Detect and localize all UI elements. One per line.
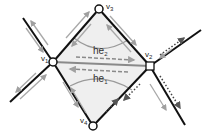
label-v2: v2 <box>145 51 152 60</box>
half-edge-diagram: v3 v1 v2 v4 he2 he1 <box>0 0 209 134</box>
label-v4: v4 <box>80 117 87 126</box>
face-upper <box>53 9 150 66</box>
vertex-v1 <box>49 58 57 66</box>
vertex-v4 <box>89 122 97 130</box>
label-v1: v1 <box>41 55 48 64</box>
label-he2: he2 <box>93 46 107 57</box>
vertex-v3 <box>95 5 103 13</box>
label-he1: he1 <box>93 74 107 85</box>
mesh-graphic <box>0 0 209 134</box>
vertex-v2 <box>146 62 154 70</box>
label-v3: v3 <box>106 3 113 12</box>
